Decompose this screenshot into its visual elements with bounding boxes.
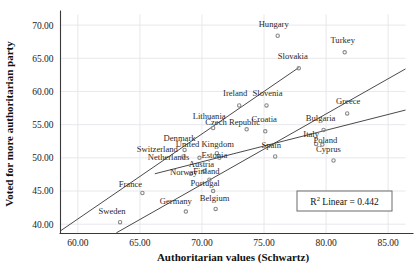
y-tick-label: 65.00	[32, 54, 54, 64]
data-point	[264, 130, 267, 133]
data-point	[214, 207, 217, 210]
data-point	[276, 34, 279, 37]
x-tick-label: 75.00	[253, 238, 275, 248]
x-tick-label: 60.00	[67, 238, 89, 248]
y-tick-label: 50.00	[32, 153, 54, 163]
point-label: France	[119, 179, 143, 189]
data-point	[297, 67, 300, 70]
point-label: Slovenia	[252, 88, 282, 98]
data-point	[118, 221, 121, 224]
point-label: Slovakia	[278, 51, 308, 61]
point-label: Portugal	[191, 178, 221, 188]
data-point	[245, 128, 248, 131]
data-point	[273, 155, 276, 158]
r-squared-text: R2 Linear = 0.442	[310, 195, 379, 206]
point-label: Hungary	[259, 19, 290, 29]
point-label: Greece	[336, 96, 361, 106]
point-label: Belgium	[200, 193, 230, 203]
chart-canvas: 60.0065.0070.0075.0080.0085.0040.0045.00…	[0, 0, 416, 277]
r-value: Linear = 0.442	[320, 197, 379, 207]
point-label: Turkey	[330, 35, 355, 45]
point-label: Spain	[261, 140, 281, 150]
point-labels: HungaryTurkeySlovakiaIrelandSloveniaGree…	[98, 19, 360, 216]
point-label: Finland	[193, 166, 220, 176]
point-label: United Kingdom	[176, 139, 234, 149]
data-point	[345, 112, 348, 115]
data-point	[238, 104, 241, 107]
point-label: Sweden	[98, 206, 126, 216]
data-point	[265, 104, 268, 107]
point-label: Ireland	[223, 88, 248, 98]
x-tick-label: 65.00	[129, 238, 151, 248]
scatter-chart: 60.0065.0070.0075.0080.0085.0040.0045.00…	[0, 0, 416, 277]
x-tick-label: 85.00	[377, 238, 399, 248]
y-tick-label: 55.00	[32, 120, 54, 130]
axis-ticks: 60.0065.0070.0075.0080.0085.0040.0045.00…	[32, 21, 399, 248]
data-point	[343, 51, 346, 54]
y-tick-label: 45.00	[32, 186, 54, 196]
x-tick-label: 80.00	[315, 238, 337, 248]
data-point	[184, 210, 187, 213]
y-axis-title: Voted for more authoritarian party	[3, 41, 15, 207]
point-label: Bulgaria	[306, 113, 336, 123]
x-tick-label: 70.00	[191, 238, 213, 248]
point-label: Netherlands	[148, 152, 190, 162]
r-squared-annotation: R2 Linear = 0.442	[297, 191, 392, 211]
y-tick-label: 70.00	[32, 21, 54, 31]
point-label: Cyprus	[316, 144, 341, 154]
point-label: Germany	[160, 196, 193, 206]
x-axis-title: Authoritarian values (Schwartz)	[157, 251, 309, 264]
y-tick-label: 60.00	[32, 87, 54, 97]
point-label: Czech Republic	[205, 117, 260, 127]
data-point	[141, 191, 144, 194]
data-point	[322, 128, 325, 131]
data-point	[332, 159, 335, 162]
y-tick-label: 40.00	[32, 220, 54, 230]
